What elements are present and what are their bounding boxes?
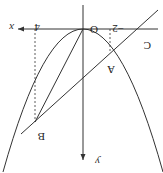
label-x-axis: x	[9, 22, 15, 34]
label-point-a: A	[107, 64, 115, 76]
segment-ob	[35, 29, 83, 122]
x-axis-arrow-icon	[18, 27, 24, 32]
label-y-axis: y	[95, 156, 101, 168]
label-point-b: B	[38, 131, 45, 143]
diagram-canvas: x 4 O −2 C A B y	[0, 0, 163, 173]
label-origin: O	[90, 24, 98, 36]
label-point-c: C	[144, 40, 151, 52]
label-tick-neg2: −2	[112, 23, 124, 35]
label-tick-4: 4	[34, 22, 40, 34]
y-axis-arrow-icon	[81, 154, 86, 160]
